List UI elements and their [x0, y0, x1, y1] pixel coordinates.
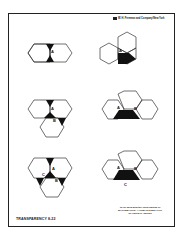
- transparency-label: TRANSPARENCY 8-22: [16, 217, 56, 221]
- figure-4: A B: [102, 91, 158, 119]
- label-a: A: [117, 105, 120, 110]
- label-b: B: [134, 166, 137, 171]
- edition-note: To be used with the Third Edition of MAT…: [112, 207, 168, 216]
- shaded-angle-middle: [44, 171, 56, 178]
- shaded-region: [113, 110, 140, 119]
- note-line-3: by Harold R. Jacobs: [112, 213, 168, 216]
- label-a: A: [52, 166, 55, 171]
- label-b: B: [55, 178, 58, 183]
- label-a: A: [51, 106, 54, 111]
- figure-6: A B C: [102, 151, 158, 187]
- figure-3: A B: [28, 100, 72, 137]
- shaded-region: [118, 53, 136, 64]
- hexagon-figures: A A A B A B A C B: [0, 0, 185, 239]
- shaded-triangle: [113, 170, 140, 180]
- label-b: B: [134, 106, 137, 111]
- label-c: C: [124, 182, 127, 187]
- label-a: A: [119, 48, 122, 53]
- label-c: C: [42, 172, 45, 177]
- label-b: B: [53, 118, 56, 123]
- label-a: A: [51, 49, 54, 54]
- label-a: A: [117, 165, 120, 170]
- shaded-angle-c: [36, 178, 44, 186]
- figure-1: A: [28, 44, 72, 62]
- shaded-angle-bottom: [46, 55, 54, 62]
- figure-5: A C B: [28, 158, 72, 197]
- figure-2: A: [100, 32, 136, 64]
- shaded-angle-top: [46, 158, 54, 166]
- shaded-angle-b: [58, 178, 66, 186]
- shaded-angle-b: [58, 118, 66, 126]
